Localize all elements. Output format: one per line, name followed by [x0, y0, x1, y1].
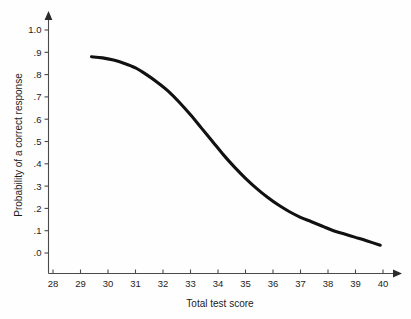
probability-curve — [92, 57, 381, 245]
chart-plot-area: .0.1.2.3.4.5.6.7.8.91.0 2829303132333435… — [0, 0, 411, 319]
x-axis-tick-label: 35 — [240, 278, 251, 289]
x-axis-tick-label: 37 — [295, 278, 306, 289]
x-axis-tick-label: 39 — [350, 278, 361, 289]
y-axis-tick-label: .3 — [34, 181, 42, 192]
x-axis-tick-label: 31 — [130, 278, 141, 289]
y-axis-tick-label: .0 — [34, 247, 42, 258]
x-axis-tick-label-group: 28293031323334353637383940 — [48, 278, 389, 289]
y-axis-tick-label: .2 — [34, 203, 42, 214]
x-axis-title: Total test score — [186, 298, 254, 309]
x-axis-tick-label: 38 — [323, 278, 334, 289]
x-axis-tick-label: 28 — [48, 278, 59, 289]
y-axis-tick-label: .9 — [34, 47, 42, 58]
x-axis-tick-label: 30 — [103, 278, 114, 289]
x-axis-arrow-icon — [393, 270, 402, 278]
y-axis-tick-label: .7 — [34, 91, 42, 102]
y-axis-tick-label: .8 — [34, 69, 42, 80]
x-axis-tick-label: 33 — [185, 278, 196, 289]
x-axis-tick-label: 32 — [158, 278, 169, 289]
y-axis-tick-mark-group — [45, 30, 49, 253]
y-axis-tick-label-group: .0.1.2.3.4.5.6.7.8.91.0 — [28, 24, 41, 258]
y-axis-tick-label: .6 — [34, 114, 42, 125]
y-axis-tick-label: 1.0 — [28, 24, 41, 35]
x-axis-tick-label: 40 — [378, 278, 389, 289]
y-axis-tick-label: .5 — [34, 136, 42, 147]
x-axis-tick-label: 34 — [213, 278, 224, 289]
chart-figure: .0.1.2.3.4.5.6.7.8.91.0 2829303132333435… — [0, 0, 411, 319]
x-axis-tick-label: 29 — [75, 278, 86, 289]
y-axis-title: Probability of a correct response — [13, 73, 24, 217]
x-axis-tick-mark-group — [53, 270, 383, 274]
y-axis-tick-label: .1 — [34, 225, 42, 236]
y-axis-tick-label: .4 — [34, 158, 42, 169]
x-axis-tick-label: 36 — [268, 278, 279, 289]
y-axis-arrow-icon — [45, 11, 53, 20]
